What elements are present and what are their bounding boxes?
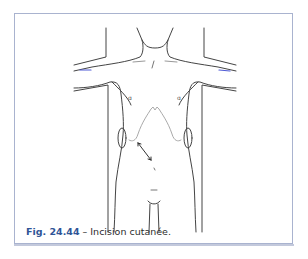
caption-text: Incision cutanée. [90,226,171,237]
right-arm-board [202,28,236,232]
left-arm-board [74,28,108,232]
torso-illustration: ɑ ɑ [0,0,308,259]
figure-caption: Fig. 24.44 – Incision cutanée. [26,226,171,237]
right-marker [219,70,230,71]
umbilicus-mark [154,168,155,170]
caption-separator: – [80,226,91,237]
left-nipple: ɑ [128,94,132,101]
right-nipple: ɑ [177,94,181,101]
double-arrow-icon [138,143,151,160]
incision-line [129,107,181,141]
torso-outline [74,82,236,232]
figure-label: Fig. 24.44 [26,226,80,237]
neck-shoulders [74,28,236,71]
